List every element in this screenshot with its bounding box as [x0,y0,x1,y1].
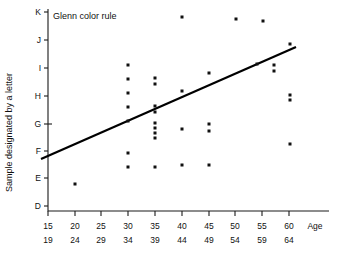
data-point [127,92,130,95]
x-tick-label-top: 30 [123,221,133,231]
x-tick-label-bottom: 34 [123,235,133,245]
data-point [235,18,238,21]
y-tick-label: I [39,63,41,73]
data-point [127,78,130,81]
data-point [127,166,130,169]
y-tick-label: K [35,7,41,17]
x-tick-label-bottom: 54 [230,235,240,245]
data-point [208,130,211,133]
data-point [256,63,259,66]
data-point [154,83,157,86]
data-point [154,166,157,169]
y-tick-label: D [35,201,41,211]
x-axis-ticks [48,211,289,216]
data-point [208,123,211,126]
x-tick-label-top: 25 [96,221,106,231]
x-tick-label-bottom: 44 [177,235,187,245]
x-tick-label-bottom: 49 [204,235,214,245]
data-point [74,183,77,186]
chart-figure: Sample designated by a letter Glenn colo… [0,0,338,254]
data-point [154,132,157,135]
data-point [181,164,184,167]
x-axis-tick-labels-top: 15 20 25 30 35 40 45 50 55 60 [43,221,294,231]
data-point [154,137,157,140]
data-point [154,105,157,108]
x-tick-label-top: 20 [70,221,80,231]
x-tick-label-top: 45 [204,221,214,231]
x-tick-label-top: 60 [284,221,294,231]
data-point [154,122,157,125]
x-tick-label-top: 50 [230,221,240,231]
data-point [181,128,184,131]
y-axis-label: Sample designated by a letter [4,73,14,192]
x-axis-label: Age [307,221,322,231]
data-point [127,152,130,155]
scatter-plot: Sample designated by a letter Glenn colo… [0,0,338,254]
y-tick-label: E [35,173,41,183]
x-tick-label-top: 40 [177,221,187,231]
x-tick-label-top: 15 [43,221,53,231]
y-axis-tick-labels: K J I H G F E D [34,7,41,211]
data-point [154,77,157,80]
data-point [181,90,184,93]
data-point [127,64,130,67]
data-point [289,99,292,102]
x-tick-label-bottom: 59 [257,235,267,245]
data-point [262,20,265,23]
data-point [154,111,157,114]
x-tick-label-bottom: 29 [96,235,106,245]
data-point [127,120,130,123]
x-tick-label-bottom: 19 [43,235,53,245]
data-point [208,164,211,167]
chart-title: Glenn color rule [53,11,117,21]
data-point [208,72,211,75]
axis-lines [48,9,329,211]
y-tick-label: H [35,91,41,101]
data-point [154,127,157,130]
data-point [289,143,292,146]
data-points-layer [74,16,292,186]
data-point [289,94,292,97]
x-tick-label-top: 55 [257,221,267,231]
y-tick-label: J [37,35,41,45]
x-tick-label-top: 35 [150,221,160,231]
data-point [181,16,184,19]
data-point [289,43,292,46]
x-axis-tick-labels-bottom: 19 24 29 34 39 44 49 54 59 64 [43,235,294,245]
x-tick-label-bottom: 39 [150,235,160,245]
data-point [273,64,276,67]
y-tick-label: G [34,119,41,129]
x-tick-label-bottom: 64 [284,235,294,245]
data-point [127,106,130,109]
y-tick-label: F [36,146,41,156]
data-point [273,70,276,73]
x-tick-label-bottom: 24 [70,235,80,245]
